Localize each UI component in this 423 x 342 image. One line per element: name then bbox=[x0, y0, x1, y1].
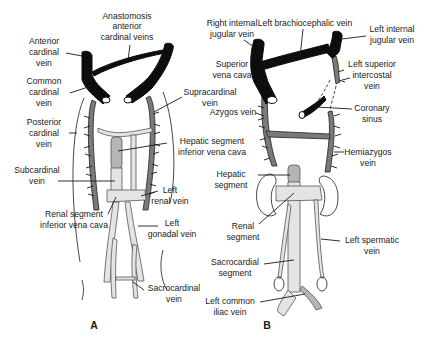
svg-text:Anastomosis: Anastomosis bbox=[102, 11, 151, 21]
label-renal-segment-ivc: Renal segment inferior vena cava bbox=[40, 197, 116, 230]
svg-text:segment: segment bbox=[215, 180, 249, 190]
ivc-panel-b bbox=[274, 165, 327, 316]
svg-text:Sacrocardial: Sacrocardial bbox=[211, 257, 259, 267]
svg-text:Supracardinal: Supracardinal bbox=[183, 87, 236, 97]
posterior-cardinal-vein-right bbox=[73, 98, 84, 262]
svg-text:gonadal vein: gonadal vein bbox=[148, 229, 197, 239]
svg-text:Left: Left bbox=[163, 185, 178, 195]
label-left-gonadal-vein: Left gonadal vein bbox=[138, 218, 197, 239]
right-kidney bbox=[257, 174, 277, 216]
svg-text:vena cava: vena cava bbox=[212, 70, 251, 80]
svg-text:vein: vein bbox=[360, 158, 376, 168]
svg-text:inferior vena cava: inferior vena cava bbox=[178, 147, 246, 157]
panel-b: Right internal jugular vein Left brachio… bbox=[205, 18, 414, 331]
ivc-panel-a bbox=[104, 135, 146, 298]
svg-text:vein: vein bbox=[166, 294, 182, 304]
svg-text:Hemiazygos: Hemiazygos bbox=[344, 147, 391, 157]
svg-text:Renal segment: Renal segment bbox=[45, 209, 103, 219]
svg-text:vein: vein bbox=[36, 98, 52, 108]
supracardinal-vein-right bbox=[84, 100, 99, 210]
svg-text:Hepatic segment: Hepatic segment bbox=[180, 136, 245, 146]
svg-text:jugular vein: jugular vein bbox=[369, 35, 414, 45]
svg-text:iliac vein: iliac vein bbox=[214, 307, 247, 317]
label-azygos-vein: Azygos vein bbox=[210, 107, 264, 117]
svg-text:vein: vein bbox=[36, 58, 52, 68]
svg-text:segment: segment bbox=[219, 268, 253, 278]
svg-text:sinus: sinus bbox=[362, 114, 382, 124]
svg-text:Left superior: Left superior bbox=[348, 59, 396, 69]
label-posterior-cardinal: Posterior cardinal vein bbox=[27, 117, 77, 149]
svg-text:Anterior: Anterior bbox=[29, 36, 59, 46]
svg-text:vein: vein bbox=[364, 81, 380, 91]
hemiazygos-vein bbox=[325, 111, 341, 172]
svg-text:Left: Left bbox=[165, 218, 180, 228]
svg-text:Superior: Superior bbox=[216, 59, 249, 69]
label-common-cardinal: Common cardinal vein bbox=[27, 76, 91, 108]
label-left-internal-jugular: Left internal jugular vein bbox=[342, 24, 415, 45]
svg-text:Renal: Renal bbox=[232, 221, 255, 231]
svg-text:renal vein: renal vein bbox=[151, 196, 188, 206]
svg-text:inferior vena cava: inferior vena cava bbox=[40, 220, 108, 230]
svg-text:cardinal: cardinal bbox=[29, 128, 59, 138]
label-coronary-sinus: Coronary sinus bbox=[316, 103, 390, 124]
label-left-spermatic-vein: Left spermatic vein bbox=[321, 235, 400, 256]
label-left-superior-intercostal: Left superior intercostal vein bbox=[342, 59, 396, 91]
svg-text:jugular vein: jugular vein bbox=[209, 29, 254, 39]
svg-text:intercostal: intercostal bbox=[352, 70, 391, 80]
svg-text:Right internal: Right internal bbox=[207, 18, 258, 28]
svg-text:vein: vein bbox=[36, 139, 52, 149]
panel-label-a: A bbox=[90, 319, 98, 331]
svg-text:segment: segment bbox=[227, 232, 261, 242]
svg-text:cardinal veins: cardinal veins bbox=[101, 32, 154, 42]
panel-a: Anastomosis anterior cardinal veins Ante… bbox=[14, 11, 246, 331]
svg-text:cardinal: cardinal bbox=[29, 47, 59, 57]
left-kidney bbox=[319, 176, 338, 216]
svg-text:Subcardinal: Subcardinal bbox=[14, 165, 59, 175]
label-subcardinal: Subcardinal vein bbox=[14, 165, 115, 186]
svg-text:vein: vein bbox=[29, 176, 45, 186]
svg-text:Left spermatic: Left spermatic bbox=[345, 235, 400, 245]
label-right-internal-jugular: Right internal jugular vein bbox=[207, 18, 258, 47]
label-hemiazygos-vein: Hemiazygos vein bbox=[334, 147, 392, 168]
anterior-cardinal-veins bbox=[82, 43, 173, 104]
label-anastomosis: Anastomosis anterior cardinal veins bbox=[101, 11, 154, 60]
svg-text:cardinal: cardinal bbox=[29, 87, 59, 97]
svg-text:anterior: anterior bbox=[112, 21, 141, 31]
panel-label-b: B bbox=[263, 319, 271, 331]
label-anterior-cardinal: Anterior cardinal vein bbox=[29, 36, 82, 68]
svg-text:Hepatic: Hepatic bbox=[216, 169, 246, 179]
svg-text:Posterior: Posterior bbox=[27, 117, 62, 127]
svg-text:Azygos vein: Azygos vein bbox=[210, 107, 257, 117]
svg-text:vein: vein bbox=[364, 246, 380, 256]
svg-text:Left brachiocephalic vein: Left brachiocephalic vein bbox=[258, 18, 353, 28]
svg-text:Left common: Left common bbox=[205, 296, 255, 306]
venous-development-diagram: Anastomosis anterior cardinal veins Ante… bbox=[0, 0, 423, 342]
svg-text:Common: Common bbox=[27, 76, 62, 86]
label-hepatic-segment-ivc: Hepatic segment inferior vena cava bbox=[118, 136, 246, 157]
svg-text:Coronary: Coronary bbox=[354, 103, 390, 113]
svg-text:Sacrocardinal: Sacrocardinal bbox=[148, 283, 201, 293]
svg-text:Left internal: Left internal bbox=[370, 24, 415, 34]
label-sacrocardinal-vein: Sacrocardinal vein bbox=[133, 282, 200, 304]
